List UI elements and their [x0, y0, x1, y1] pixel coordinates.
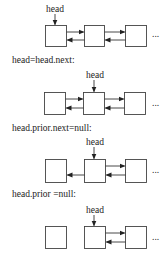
caption-step-3: head.prior.next=null: — [12, 123, 92, 133]
caption-step-2: head=head.next: — [12, 55, 75, 65]
step-3: head ... — [46, 137, 160, 183]
caption-step-4: head.prior =null: — [12, 189, 76, 199]
node-3 — [126, 26, 147, 47]
node-3 — [126, 160, 147, 183]
node-3 — [125, 93, 146, 115]
ellipsis: ... — [152, 98, 159, 108]
ellipsis: ... — [152, 165, 159, 175]
linked-list-diagram: head ... head=head.next: head ... head.p… — [0, 0, 168, 259]
node-1 — [46, 26, 67, 47]
node-3 — [126, 227, 147, 249]
step-2: head ... — [45, 70, 160, 115]
node-1 — [46, 160, 67, 183]
head-label: head — [46, 4, 64, 14]
ellipsis: ... — [152, 29, 159, 39]
head-label: head — [86, 137, 104, 147]
ellipsis: ... — [152, 232, 159, 242]
head-label: head — [86, 205, 104, 215]
node-2 — [85, 160, 106, 183]
head-label: head — [86, 70, 104, 80]
step-4: head ... — [46, 205, 160, 249]
node-1 — [46, 227, 67, 249]
node-2 — [85, 227, 106, 249]
step-1: head ... — [46, 4, 160, 47]
node-2 — [84, 93, 105, 115]
node-2 — [85, 26, 105, 47]
node-1 — [45, 93, 66, 115]
